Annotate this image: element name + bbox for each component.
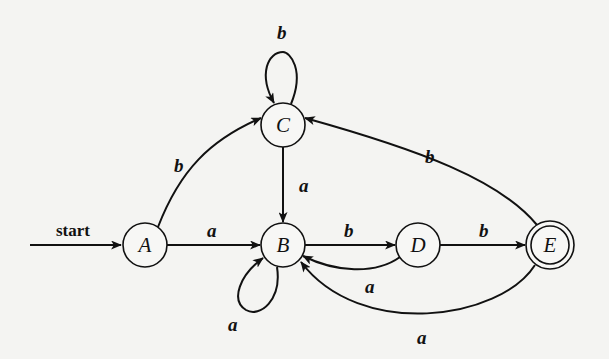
edge-d-e: b	[440, 220, 525, 245]
edge-a-c: b	[158, 118, 261, 227]
edge-label-a-b: a	[207, 220, 217, 241]
edge-b-d: b	[305, 220, 395, 245]
edge-label-c-b: a	[299, 175, 309, 196]
edge-c-b: a	[283, 147, 309, 222]
state-label-a: A	[137, 233, 152, 257]
state-label-d: D	[409, 233, 425, 257]
start-arrow: start	[30, 221, 121, 245]
edge-label-a-c: b	[174, 155, 184, 176]
state-d: D	[396, 223, 440, 267]
edge-a-b: a	[167, 220, 260, 245]
edge-label-e-c: b	[425, 146, 435, 167]
edge-b-b: a	[228, 258, 278, 335]
edge-c-c: b	[266, 22, 297, 104]
state-e-accepting: E	[526, 221, 574, 269]
edge-label-d-b: a	[365, 276, 375, 297]
edge-label-e-b: a	[417, 327, 427, 348]
start-label: start	[56, 221, 90, 240]
state-b: B	[261, 223, 305, 267]
edge-label-c-c: b	[277, 22, 287, 43]
edge-e-b: a	[301, 262, 535, 348]
edge-label-b-b: a	[228, 314, 238, 335]
edge-e-c: b	[305, 118, 537, 225]
edge-label-b-d: b	[344, 220, 354, 241]
state-c: C	[261, 103, 305, 147]
automaton-diagram: start b b a a b b b a a	[0, 0, 609, 359]
edge-label-d-e: b	[479, 220, 489, 241]
state-label-b: B	[277, 233, 290, 257]
state-a: A	[123, 223, 167, 267]
state-label-e: E	[543, 233, 557, 257]
state-label-c: C	[276, 113, 291, 137]
edge-d-b: a	[303, 256, 400, 297]
